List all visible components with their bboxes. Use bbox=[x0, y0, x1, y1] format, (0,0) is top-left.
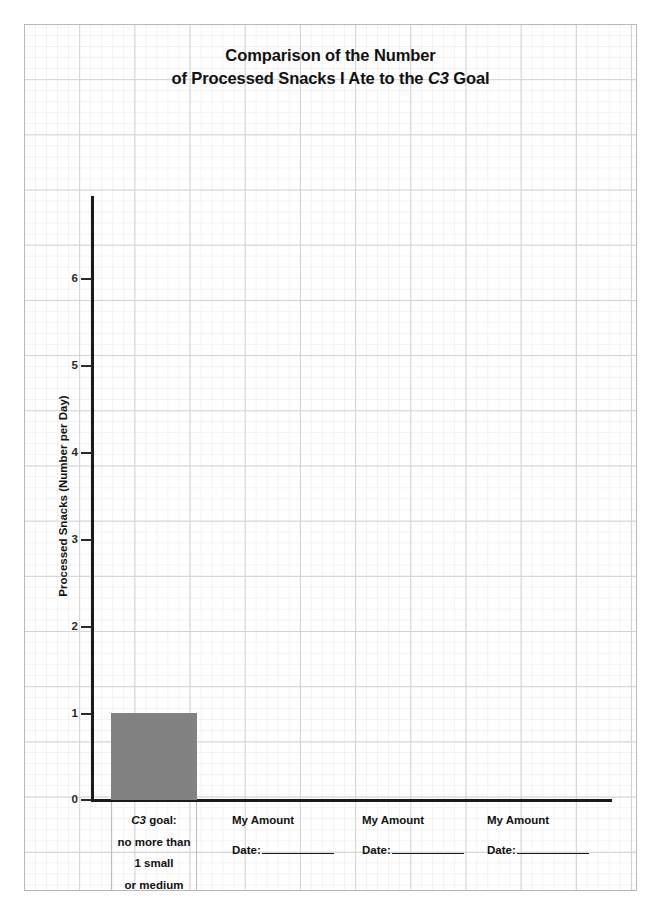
date-label-2: Date: bbox=[362, 844, 391, 856]
date-row-3: Date: bbox=[487, 843, 627, 856]
c3-goal-line-3: 1 small bbox=[112, 853, 196, 875]
chart-title: Comparison of the Number of Processed Sn… bbox=[24, 44, 637, 90]
my-amount-title-3: My Amount bbox=[487, 810, 627, 831]
date-input-3[interactable] bbox=[517, 843, 589, 854]
chart-title-emphasis: Processed Snacks bbox=[191, 69, 335, 87]
my-amount-title-2: My Amount bbox=[362, 810, 502, 831]
x-category-c3-goal: C3 goal: no more than 1 small or medium bbox=[111, 802, 197, 891]
chart-title-prefix: of bbox=[171, 69, 191, 87]
date-row-2: Date: bbox=[362, 843, 502, 856]
x-axis-labels: C3 goal: no more than 1 small or medium … bbox=[0, 802, 660, 894]
chart-title-line-2: of Processed Snacks I Ate to the C3 Goal bbox=[24, 67, 637, 90]
date-label-1: Date: bbox=[232, 844, 261, 856]
chart-title-c3: C3 bbox=[428, 69, 449, 87]
chart-title-line-1-text: Comparison of the Number bbox=[225, 46, 435, 64]
chart-title-line-1: Comparison of the Number bbox=[24, 44, 637, 67]
c3-goal-label-rest: goal: bbox=[146, 814, 177, 826]
chart-title-mid: I Ate to the bbox=[336, 69, 428, 87]
date-input-1[interactable] bbox=[262, 843, 334, 854]
x-category-my-amount-1: My Amount Date: bbox=[232, 802, 372, 856]
date-label-3: Date: bbox=[487, 844, 516, 856]
graph-paper-sheet bbox=[24, 24, 637, 891]
date-row-1: Date: bbox=[232, 843, 372, 856]
my-amount-title-1: My Amount bbox=[232, 810, 372, 831]
date-input-2[interactable] bbox=[392, 843, 464, 854]
x-category-my-amount-3: My Amount Date: bbox=[487, 802, 627, 856]
chart-title-suffix: Goal bbox=[449, 69, 490, 87]
c3-goal-c3-text: C3 bbox=[131, 814, 146, 826]
c3-goal-line-4: or medium bbox=[112, 875, 196, 897]
worksheet-page: Comparison of the Number of Processed Sn… bbox=[0, 0, 660, 916]
x-category-my-amount-2: My Amount Date: bbox=[362, 802, 502, 856]
c3-goal-line-2: no more than bbox=[112, 832, 196, 854]
c3-goal-line-1: C3 goal: bbox=[112, 810, 196, 832]
